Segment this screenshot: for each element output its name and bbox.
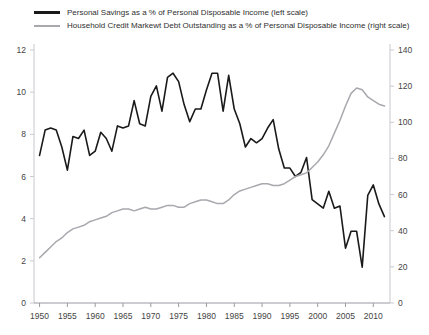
y-tick-label-left-0: 0 xyxy=(21,298,26,308)
y-tick-label-right-7: 140 xyxy=(398,45,412,55)
y-tick-label-right-1: 20 xyxy=(398,262,408,272)
series-line-personal-savings xyxy=(40,73,385,267)
y-tick-label-right-6: 120 xyxy=(398,81,412,91)
x-tick-label-1: 1955 xyxy=(58,311,77,321)
y-tick-label-right-5: 100 xyxy=(398,117,412,127)
x-tick-label-3: 1965 xyxy=(114,311,133,321)
y-tick-label-left-4: 8 xyxy=(21,129,26,139)
x-tick-label-7: 1985 xyxy=(225,311,244,321)
x-tick-label-6: 1980 xyxy=(197,311,216,321)
x-tick-label-8: 1990 xyxy=(253,311,272,321)
y-tick-label-left-2: 4 xyxy=(21,214,26,224)
y-tick-label-right-4: 80 xyxy=(398,153,408,163)
series-line-household-debt xyxy=(40,88,385,258)
x-tick-label-12: 2010 xyxy=(364,311,383,321)
x-tick-label-11: 2005 xyxy=(336,311,355,321)
plot-area: 0246810120204060801001201401950195519601… xyxy=(0,0,429,335)
y-tick-label-left-1: 2 xyxy=(21,256,26,266)
chart-svg: 0246810120204060801001201401950195519601… xyxy=(0,0,429,335)
y-tick-label-left-5: 10 xyxy=(17,87,27,97)
y-tick-label-right-3: 60 xyxy=(398,190,408,200)
y-tick-label-left-6: 12 xyxy=(17,45,27,55)
x-tick-label-4: 1970 xyxy=(141,311,160,321)
y-tick-label-right-2: 40 xyxy=(398,226,408,236)
x-tick-label-10: 2000 xyxy=(308,311,327,321)
x-tick-label-9: 1995 xyxy=(280,311,299,321)
y-tick-label-left-3: 6 xyxy=(21,172,26,182)
chart-figure: Personal Savings as a % of Personal Disp… xyxy=(0,0,429,335)
x-tick-label-0: 1950 xyxy=(30,311,49,321)
y-tick-label-right-0: 0 xyxy=(398,298,403,308)
x-tick-label-5: 1975 xyxy=(169,311,188,321)
x-tick-label-2: 1960 xyxy=(86,311,105,321)
